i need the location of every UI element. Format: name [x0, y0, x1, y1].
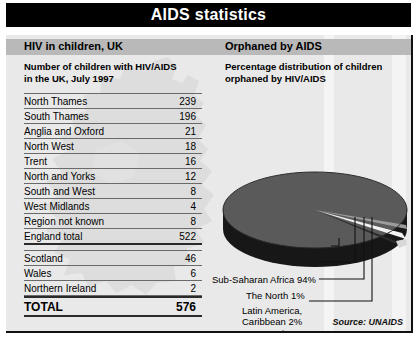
table-row: West Midlands 4 — [24, 199, 202, 214]
right-subtitle-line1: Percentage distribution of children — [225, 61, 382, 73]
row-label: Wales — [24, 268, 51, 279]
right-subtitle-line2: orphaned by HIV/AIDS — [225, 73, 382, 85]
orphans-pie-chart — [220, 153, 410, 278]
table-row: North Thames 239 — [24, 93, 202, 109]
total-value: 576 — [176, 300, 196, 314]
table-row: North West 18 — [24, 139, 202, 154]
row-value: 8 — [190, 216, 196, 227]
row-label: Scotland — [24, 253, 63, 264]
table-row: South Thames 196 — [24, 109, 202, 124]
row-label: West Midlands — [24, 201, 89, 212]
row-label: South Thames — [24, 111, 89, 122]
table-row: South and West 8 — [24, 184, 202, 199]
table-row: Trent 16 — [24, 154, 202, 169]
table-row: Scotland 46 — [24, 250, 202, 266]
row-label: Northern Ireland — [24, 283, 96, 294]
row-value: 16 — [185, 156, 196, 167]
right-subtitle: Percentage distribution of children orph… — [225, 61, 382, 85]
row-value: 196 — [179, 111, 196, 122]
row-value: 46 — [185, 253, 196, 264]
right-section-header: Orphaned by AIDS — [225, 40, 322, 52]
row-value: 21 — [185, 126, 196, 137]
row-label: England total — [24, 231, 82, 242]
row-value: 2 — [190, 283, 196, 294]
row-value: 522 — [179, 231, 196, 242]
row-label: North West — [24, 141, 74, 152]
row-value: 6 — [190, 268, 196, 279]
left-subtitle: Number of children with HIV/AIDS in the … — [24, 61, 177, 85]
pie-label-asia: Asia 3% — [271, 328, 306, 333]
pie-label-latin-line1: Latin America, — [242, 305, 302, 316]
row-label: Region not known — [24, 216, 104, 227]
table-row: Region not known 8 — [24, 214, 202, 229]
row-label: Trent — [24, 156, 47, 167]
left-subtitle-line2: in the UK, July 1997 — [24, 73, 177, 85]
source-credit: Source: UNAIDS — [332, 317, 403, 327]
pie-label-the-north: The North 1% — [246, 290, 305, 301]
content-panel: HIV in children, UK Orphaned by AIDS Num… — [6, 35, 413, 333]
pie-label-sub-saharan-africa: Sub-Saharan Africa 94% — [212, 274, 316, 285]
figure-root: AIDS statistics HIV in children, UK Orph… — [0, 0, 417, 339]
row-value: 4 — [190, 201, 196, 212]
row-value: 239 — [179, 96, 196, 107]
left-subtitle-line1: Number of children with HIV/AIDS — [24, 61, 177, 73]
row-label: North Thames — [24, 96, 87, 107]
table-row: Northern Ireland 2 — [24, 281, 202, 296]
pie-label-latin-line2: Caribbean 2% — [242, 316, 302, 327]
row-label: North and Yorks — [24, 171, 95, 182]
pie-label-latin-america-caribbean: Latin America, Caribbean 2% — [242, 305, 302, 327]
table-row: Wales 6 — [24, 266, 202, 281]
row-label: South and West — [24, 186, 95, 197]
row-label: Anglia and Oxford — [24, 126, 104, 137]
figure-title-bar: AIDS statistics — [6, 3, 411, 27]
row-value: 8 — [190, 186, 196, 197]
table-row: North and Yorks 12 — [24, 169, 202, 184]
hiv-children-table: North Thames 239 South Thames 196 Anglia… — [24, 93, 202, 317]
row-value: 12 — [185, 171, 196, 182]
row-value: 18 — [185, 141, 196, 152]
title-word-aids: AIDS — [151, 6, 190, 24]
title-word-statistics: statistics — [195, 6, 266, 24]
table-row-total: TOTAL 576 — [24, 296, 202, 317]
table-row: Anglia and Oxford 21 — [24, 124, 202, 139]
table-row-england-total: England total 522 — [24, 229, 202, 245]
total-label: TOTAL — [24, 300, 63, 314]
left-section-header: HIV in children, UK — [24, 40, 123, 52]
